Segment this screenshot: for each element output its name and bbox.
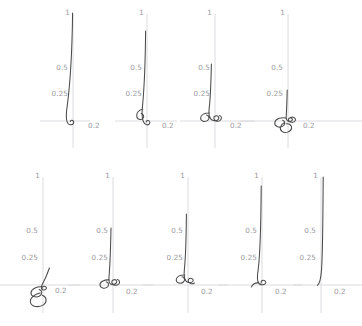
y-tick-1: 1	[132, 9, 144, 16]
y-tick-05: 0.5	[48, 64, 68, 71]
y-tick-05: 0.5	[296, 227, 316, 234]
y-tick-025: 0.25	[44, 90, 68, 97]
y-tick-05: 0.5	[237, 227, 257, 234]
panel-8-plot	[218, 163, 303, 326]
y-tick-05: 0.5	[122, 64, 142, 71]
trajectory-curve	[176, 214, 194, 284]
y-tick-025: 0.25	[159, 254, 183, 261]
panel-6: 1 0.5 0.25 0.2	[68, 163, 153, 326]
y-tick-025: 0.25	[233, 254, 257, 261]
trajectory-curve	[317, 177, 323, 285]
y-tick-025: 0.25	[14, 254, 38, 261]
y-tick-05: 0.5	[88, 227, 108, 234]
trajectory-curve	[30, 268, 49, 307]
panel-9-plot	[293, 163, 362, 326]
x-tick-02: 0.2	[334, 288, 346, 295]
x-tick-02: 0.2	[201, 288, 213, 295]
y-tick-1: 1	[306, 172, 318, 179]
y-tick-1: 1	[98, 172, 110, 179]
x-tick-02: 0.2	[275, 288, 287, 295]
y-tick-1: 1	[28, 172, 40, 179]
y-tick-025: 0.25	[292, 254, 316, 261]
y-tick-05: 0.5	[190, 64, 210, 71]
panel-7: 1 0.5 0.25 0.2	[143, 163, 228, 326]
y-tick-05: 0.5	[163, 227, 183, 234]
panel-1: 1 0.5 0.25 0.2	[0, 0, 90, 160]
panel-8: 1 0.5 0.25 0.2	[218, 163, 303, 326]
y-tick-1: 1	[58, 9, 70, 16]
y-tick-1: 1	[200, 9, 212, 16]
y-tick-025: 0.25	[84, 254, 108, 261]
small-multiples-figure: 1 0.5 0.25 0.2 1 0.5 0.25 0.2 1 0.5 0.25…	[0, 0, 362, 326]
y-tick-05: 0.5	[263, 64, 283, 71]
y-tick-1: 1	[247, 172, 259, 179]
y-tick-1: 1	[173, 172, 185, 179]
y-tick-025: 0.25	[259, 90, 283, 97]
y-tick-025: 0.25	[186, 90, 210, 97]
y-tick-025: 0.25	[118, 90, 142, 97]
panel-6-plot	[68, 163, 153, 326]
panel-9: 1 0.5 0.25 0.2	[293, 163, 362, 326]
trajectory-curve	[252, 186, 266, 287]
x-tick-02: 0.2	[303, 122, 315, 129]
panel-4-plot	[240, 0, 362, 160]
y-tick-1: 1	[273, 9, 285, 16]
panel-7-plot	[143, 163, 228, 326]
panel-4: 1 0.5 0.25 0.2	[240, 0, 362, 160]
trajectory-curve	[137, 31, 150, 125]
x-tick-02: 0.2	[55, 287, 67, 294]
x-tick-02: 0.2	[126, 288, 138, 295]
y-tick-05: 0.5	[18, 227, 38, 234]
panel-1-plot	[0, 0, 90, 160]
